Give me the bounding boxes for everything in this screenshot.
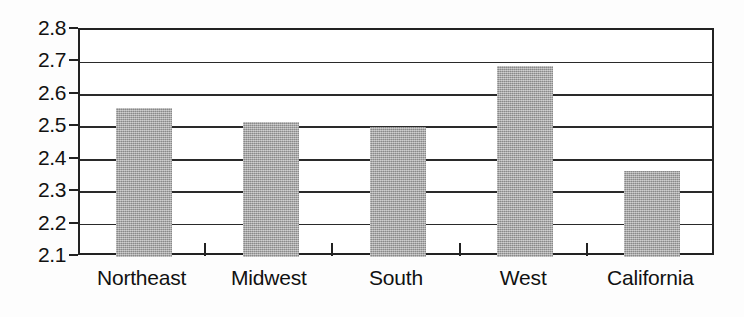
- bar-west: [497, 66, 553, 257]
- y-axis-labels: 2.8 2.7 2.6 2.5 2.4 2.3 2.2 2.1: [0, 0, 66, 317]
- y-tick-mark: [69, 92, 78, 94]
- x-tick-mark: [204, 243, 206, 256]
- bar-northeast: [116, 108, 172, 257]
- plot-area: [78, 28, 714, 255]
- y-tick-mark: [69, 254, 78, 256]
- x-tick-label-midwest: Midwest: [205, 266, 332, 289]
- y-tick-mark: [69, 222, 78, 224]
- y-tick-label: 2.4: [4, 147, 66, 168]
- gridline: [80, 62, 712, 64]
- y-tick-mark: [69, 157, 78, 159]
- x-tick-label-south: South: [332, 266, 459, 289]
- bar-california: [624, 171, 680, 257]
- y-tick-mark: [69, 27, 78, 29]
- y-tick-label: 2.5: [4, 114, 66, 135]
- x-tick-label-northeast: Northeast: [78, 266, 205, 289]
- chart-screenshot: 2.8 2.7 2.6 2.5 2.4 2.3 2.2 2.1 Northeas…: [0, 0, 744, 317]
- y-tick-label: 2.3: [4, 179, 66, 200]
- y-tick-label: 2.8: [4, 17, 66, 38]
- gridline: [80, 94, 712, 96]
- y-tick-mark: [69, 124, 78, 126]
- bar-midwest: [243, 122, 299, 257]
- y-tick-label: 2.2: [4, 212, 66, 233]
- y-tick-mark: [69, 189, 78, 191]
- y-tick-mark: [69, 59, 78, 61]
- x-tick-label-california: California: [587, 266, 714, 289]
- bar-south: [370, 127, 426, 257]
- x-tick-mark: [459, 243, 461, 256]
- y-tick-label: 2.1: [4, 244, 66, 265]
- x-tick-label-west: West: [460, 266, 587, 289]
- x-tick-mark: [331, 243, 333, 256]
- y-tick-label: 2.7: [4, 49, 66, 70]
- x-tick-mark: [586, 243, 588, 256]
- y-tick-label: 2.6: [4, 82, 66, 103]
